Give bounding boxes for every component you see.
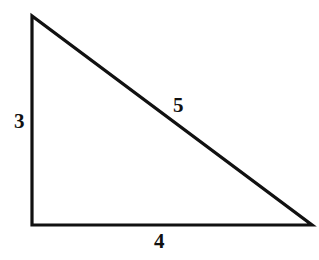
triangle-outline <box>32 16 312 225</box>
right-triangle-figure: 3 5 4 <box>0 0 319 260</box>
hypotenuse-label: 5 <box>173 95 184 116</box>
horizontal-leg-label: 4 <box>154 231 165 252</box>
vertical-leg-label: 3 <box>14 111 25 132</box>
triangle-shape <box>0 0 319 260</box>
